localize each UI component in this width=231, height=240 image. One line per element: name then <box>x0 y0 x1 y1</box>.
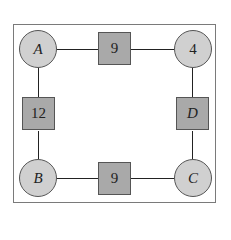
edge-d-c <box>192 131 193 159</box>
edge-a-left <box>38 68 39 98</box>
node-top-9: 9 <box>98 32 131 65</box>
node-bottom-9: 9 <box>98 162 131 195</box>
node-left-12: 12 <box>22 97 55 130</box>
node-a: A <box>19 30 57 68</box>
edge-a-top <box>57 49 98 50</box>
edge-left-b <box>38 131 39 159</box>
node-b: B <box>19 159 57 197</box>
edge-bottom-c <box>131 178 174 179</box>
node-d: D <box>176 97 209 130</box>
edge-tr-d <box>192 68 193 98</box>
node-top-right-4: 4 <box>174 30 212 68</box>
node-c: C <box>174 159 212 197</box>
edge-b-bottom <box>57 178 98 179</box>
edge-top-tr <box>131 49 174 50</box>
